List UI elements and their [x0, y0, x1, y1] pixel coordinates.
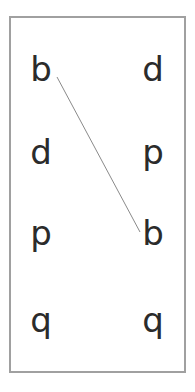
left-letter-3[interactable]: p	[26, 216, 56, 250]
right-letter-1[interactable]: d	[138, 52, 168, 86]
right-letter-2[interactable]: p	[138, 135, 168, 169]
left-letter-2[interactable]: d	[26, 135, 56, 169]
right-letter-3[interactable]: b	[138, 216, 168, 250]
right-letter-4[interactable]: q	[138, 303, 168, 337]
left-letter-1[interactable]: b	[26, 52, 56, 86]
left-letter-4[interactable]: q	[26, 303, 56, 337]
